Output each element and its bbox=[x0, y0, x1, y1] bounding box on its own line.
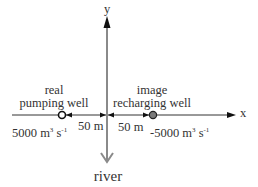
real-pumping-well-icon bbox=[59, 112, 66, 119]
y-axis-label: y bbox=[104, 3, 110, 16]
real-well-pumping-rate: 5000 m3 s-1 bbox=[12, 124, 67, 140]
real-well-distance: 50 m bbox=[78, 120, 103, 133]
dim-arrow-left-axis-icon bbox=[100, 113, 106, 118]
dim-arrow-right-well-icon bbox=[143, 113, 149, 118]
diagram-canvas bbox=[0, 0, 258, 187]
dim-arrow-left-well-icon bbox=[66, 113, 72, 118]
image-well-recharge-rate: -5000 m3 s-1 bbox=[150, 124, 209, 140]
real-well-label-line2: pumping well bbox=[19, 97, 88, 110]
image-well-distance: 50 m bbox=[118, 121, 143, 134]
image-well-label-line2: recharging well bbox=[113, 97, 191, 110]
x-axis-label: x bbox=[240, 107, 246, 120]
dim-arrow-right-axis-icon bbox=[108, 113, 114, 118]
y-axis-arrowhead-icon bbox=[104, 16, 111, 28]
image-recharging-well-icon bbox=[149, 111, 156, 118]
river-label: river bbox=[94, 168, 122, 184]
x-axis-arrowhead-icon bbox=[227, 112, 236, 118]
